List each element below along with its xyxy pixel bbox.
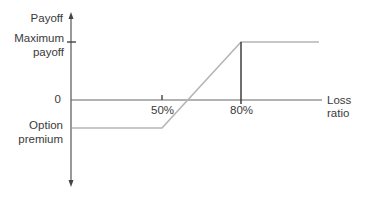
x-axis-label-1: Loss <box>327 94 351 107</box>
x-axis-label-2: ratio <box>327 107 349 120</box>
payoff-line <box>72 42 319 128</box>
y-axis-arrow-up-icon <box>69 12 74 19</box>
max-payoff-label-2: payoff <box>33 46 64 59</box>
premium-label-2: premium <box>18 133 63 146</box>
tick-50-label: 50% <box>151 104 174 117</box>
max-payoff-label-1: Maximum <box>14 32 64 45</box>
tick-80-label: 80% <box>230 104 253 117</box>
zero-label: 0 <box>55 93 61 106</box>
y-axis-label: Payoff <box>31 12 63 25</box>
y-axis-arrow-down-icon <box>69 180 74 187</box>
premium-label-1: Option <box>29 119 63 132</box>
